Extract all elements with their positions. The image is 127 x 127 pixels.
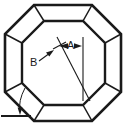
technical-drawing-figure: A B — [0, 0, 127, 127]
octagon-frame-body — [5, 5, 121, 121]
octagon-frame-diagram — [0, 0, 127, 127]
angle-arrowhead — [18, 108, 23, 116]
